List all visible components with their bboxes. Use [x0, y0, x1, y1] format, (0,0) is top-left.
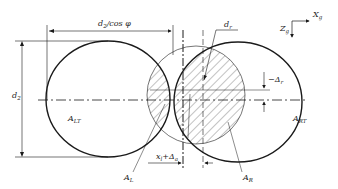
left-ellipse-area-label: ALT — [67, 114, 81, 124]
diagram-canvas: d2/cos φ d2 dr Xg Zg −Δr xl+Δ — [0, 0, 338, 189]
left-hatched-area-label: AL — [123, 173, 134, 183]
vertical-offset-dimension: −Δr — [264, 72, 283, 112]
ring-diameter-label: dr — [224, 20, 232, 30]
top-dimension-label: d2/cos φ — [98, 19, 131, 29]
right-ellipse-area-label: ART — [292, 114, 307, 124]
right-hatched-area-label: AR — [242, 173, 253, 183]
axis-z-label: Zg — [279, 24, 290, 35]
right-hatched-leader — [228, 122, 242, 172]
horizontal-offset-label: xl+Δa — [156, 152, 178, 162]
coordinate-axes: Xg Zg — [279, 10, 323, 37]
vertical-offset-label: −Δr — [268, 75, 283, 85]
left-dimension-label: d2 — [12, 91, 21, 101]
axis-x-label: Xg — [312, 10, 323, 21]
